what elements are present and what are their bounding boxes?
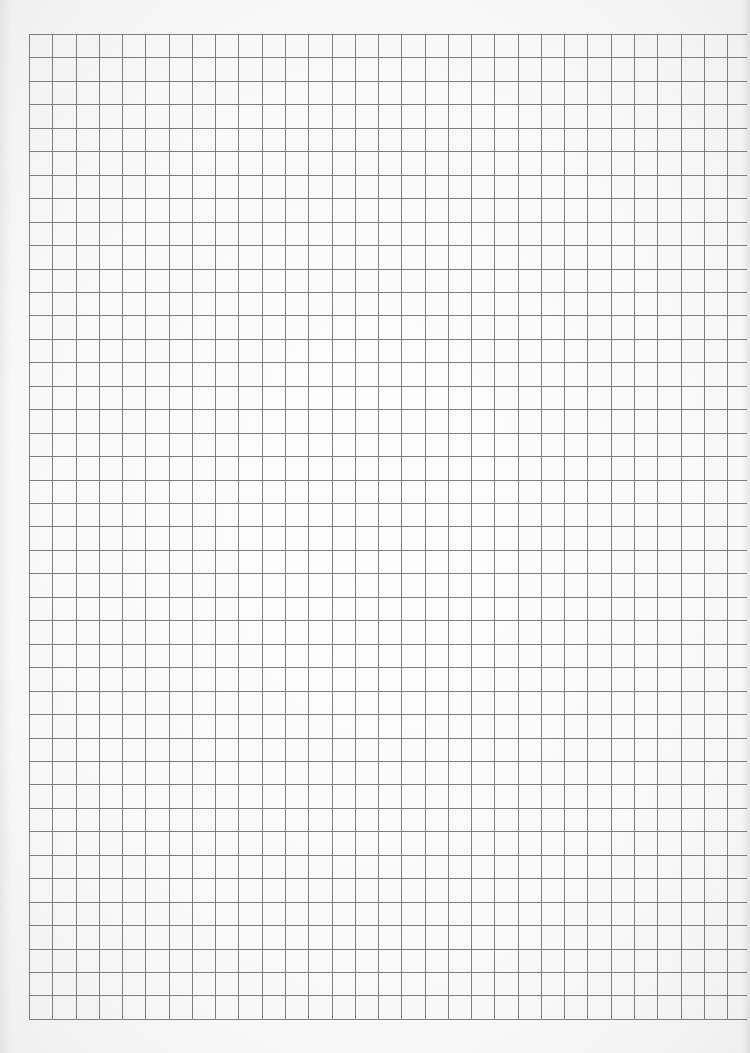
grid-lines xyxy=(0,0,750,1053)
grid-paper-sheet xyxy=(0,0,750,1053)
